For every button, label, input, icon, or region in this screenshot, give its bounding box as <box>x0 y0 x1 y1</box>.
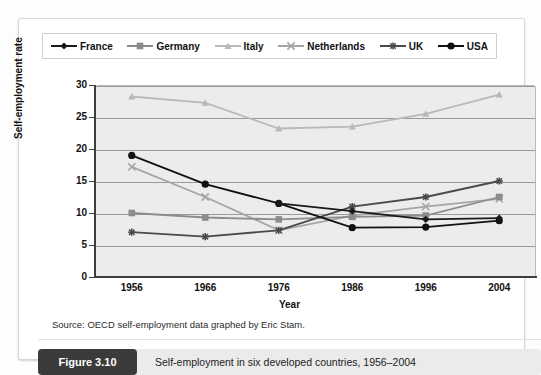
x-tick-label: 1966 <box>175 282 235 293</box>
circle-marker-icon <box>438 40 464 52</box>
legend-item-usa[interactable]: USA <box>438 40 488 52</box>
data-point <box>422 193 429 200</box>
x-tick-label: 1986 <box>322 282 382 293</box>
data-point <box>202 193 209 200</box>
legend-item-italy[interactable]: Italy <box>215 40 264 52</box>
legend-label: Italy <box>244 41 264 52</box>
legend-label: USA <box>467 41 488 52</box>
y-axis-title: Self-employment rate <box>13 37 24 139</box>
square-marker-icon <box>127 40 153 52</box>
caption-divider <box>38 339 541 340</box>
asterisk-marker-icon <box>380 40 406 52</box>
caption-bar: Figure 3.10 Self-employment in six devel… <box>38 349 541 375</box>
data-point <box>275 227 282 234</box>
y-tick-label: 5 <box>63 239 87 250</box>
x-tick-label: 2004 <box>469 282 529 293</box>
data-point <box>128 163 135 170</box>
data-point <box>128 229 135 236</box>
data-point <box>496 177 503 184</box>
source-note: Source: OECD self-employment data graphe… <box>52 319 305 330</box>
legend-item-germany[interactable]: Germany <box>127 40 199 52</box>
data-point <box>496 194 503 201</box>
x-axis-title: Year <box>19 299 541 310</box>
series-line <box>132 95 500 129</box>
chart-legend: FranceGermanyItalyNetherlandsUKUSA <box>42 33 497 59</box>
data-point <box>202 214 209 221</box>
y-tick-mark <box>89 277 95 278</box>
data-point <box>349 224 356 231</box>
data-point <box>202 181 209 188</box>
data-point <box>422 223 429 230</box>
x-tick-label: 1996 <box>396 282 456 293</box>
legend-label: Netherlands <box>307 41 365 52</box>
legend-item-uk[interactable]: UK <box>380 40 423 52</box>
y-tick-label: 20 <box>63 143 87 154</box>
x-marker-icon <box>278 40 304 52</box>
y-tick-label: 30 <box>63 79 87 90</box>
triangle-marker-icon <box>215 40 241 52</box>
figure-number-badge: Figure 3.10 <box>38 349 137 375</box>
figure-caption: Self-employment in six developed countri… <box>155 356 416 368</box>
y-tick-label: 0 <box>63 271 87 282</box>
legend-item-france[interactable]: France <box>51 40 113 52</box>
x-tick-label: 1976 <box>249 282 309 293</box>
diamond-marker-icon <box>51 40 77 52</box>
data-point <box>275 216 282 223</box>
y-tick-label: 15 <box>63 175 87 186</box>
legend-label: France <box>80 41 113 52</box>
data-point <box>128 152 135 159</box>
legend-item-netherlands[interactable]: Netherlands <box>278 40 365 52</box>
series-lines <box>95 85 536 277</box>
data-point <box>496 91 503 97</box>
x-tick-label: 1956 <box>102 282 162 293</box>
figure-container: FranceGermanyItalyNetherlandsUKUSA 05101… <box>18 18 525 360</box>
y-tick-label: 10 <box>63 207 87 218</box>
data-point <box>202 233 209 240</box>
legend-label: Germany <box>156 41 199 52</box>
figure-page: FranceGermanyItalyNetherlandsUKUSA 05101… <box>0 0 541 375</box>
data-point <box>128 210 135 217</box>
y-tick-label: 25 <box>63 111 87 122</box>
legend-label: UK <box>409 41 423 52</box>
